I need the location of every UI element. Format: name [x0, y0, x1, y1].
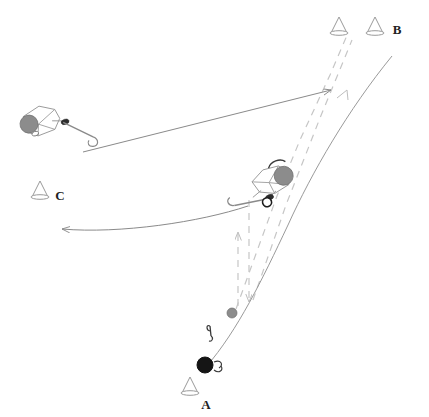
cone-a-icon: [181, 377, 199, 395]
return-pass-curve: [62, 206, 248, 230]
pass-arrow-straight: [83, 90, 331, 152]
dashed-arrowhead-icon: [337, 90, 348, 100]
drill-diagram: A B C: [0, 0, 429, 417]
player-shooter: [220, 157, 300, 218]
blade-mark-icon: [214, 361, 222, 371]
drill-canvas: A B C: [0, 0, 429, 417]
label-b: B: [393, 22, 402, 37]
mini-stick-icon: [207, 326, 212, 342]
cone-b2-icon: [366, 17, 384, 35]
cone-c-icon: [31, 181, 49, 199]
label-c: C: [55, 188, 64, 203]
puck-gray-mid: [227, 308, 237, 318]
puck-black-start: [197, 357, 213, 373]
player-passer: [16, 92, 98, 166]
cone-b1-icon: [330, 17, 348, 35]
skate-path-curve: [206, 56, 392, 367]
label-a: A: [201, 397, 211, 412]
